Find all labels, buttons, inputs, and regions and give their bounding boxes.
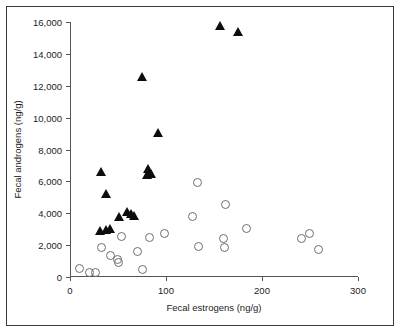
data-point-triangle (233, 27, 243, 36)
data-point-triangle (96, 167, 106, 176)
x-tick-label: 200 (254, 285, 270, 296)
x-tick-label: 300 (350, 285, 366, 296)
x-tick-label: 0 (67, 285, 72, 296)
y-tick-mark (66, 86, 70, 87)
y-tick-mark (66, 245, 70, 246)
x-axis-title: Fecal estrogens (ng/g) (70, 302, 358, 313)
y-tick-label: 0 (57, 272, 62, 283)
data-point-triangle (215, 21, 225, 30)
y-tick-mark (66, 22, 70, 23)
data-point-circle (160, 229, 169, 238)
y-tick-label: 6,000 (38, 176, 62, 187)
y-tick-mark (66, 213, 70, 214)
data-point-circle (117, 232, 126, 241)
x-tick-mark (70, 277, 71, 281)
y-tick-label: 2,000 (38, 240, 62, 251)
y-tick-mark (66, 150, 70, 151)
data-point-triangle (146, 169, 156, 178)
x-tick-label: 100 (158, 285, 174, 296)
y-tick-mark (66, 181, 70, 182)
y-tick-label: 10,000 (33, 112, 62, 123)
data-point-circle (193, 178, 202, 187)
data-point-triangle (153, 128, 163, 137)
data-point-circle (194, 242, 203, 251)
y-tick-label: 12,000 (33, 80, 62, 91)
y-tick-mark (66, 118, 70, 119)
x-tick-mark (166, 277, 167, 281)
data-point-triangle (101, 189, 111, 198)
data-point-circle (145, 233, 154, 242)
y-tick-label: 4,000 (38, 208, 62, 219)
plot-area: 02,0004,0006,0008,00010,00012,00014,0001… (70, 22, 358, 277)
data-point-circle (305, 229, 314, 238)
y-tick-label: 8,000 (38, 144, 62, 155)
y-axis-title-text: Fecal androgens (ng/g) (12, 100, 23, 198)
y-tick-label: 16,000 (33, 17, 62, 28)
plot-frame (70, 22, 358, 277)
data-point-circle (75, 264, 84, 273)
x-axis-title-text: Fecal estrogens (ng/g) (166, 302, 261, 313)
data-point-triangle (137, 72, 147, 81)
y-tick-label: 14,000 (33, 48, 62, 59)
y-tick-mark (66, 54, 70, 55)
x-tick-mark (262, 277, 263, 281)
data-point-triangle (105, 224, 115, 233)
data-point-circle (133, 247, 142, 256)
figure: Fecal androgens (ng/g) 02,0004,0006,0008… (0, 0, 400, 332)
data-point-circle (242, 224, 251, 233)
data-point-triangle (129, 211, 139, 220)
y-axis-title: Fecal androgens (ng/g) (10, 22, 24, 277)
x-tick-mark (358, 277, 359, 281)
